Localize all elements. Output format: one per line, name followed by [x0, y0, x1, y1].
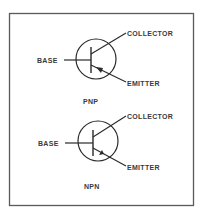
transistor-diagram: BASE COLLECTOR EMITTER PNP BASE COLLECTO… [0, 0, 202, 219]
pnp-type-label: PNP [83, 98, 98, 105]
npn-emitter-lead [93, 148, 126, 166]
pnp-emitter-label: EMITTER [127, 80, 160, 87]
npn-envelope-circle [78, 121, 118, 161]
pnp-transistor-symbol: BASE COLLECTOR EMITTER PNP [37, 30, 173, 105]
pnp-collector-lead [91, 33, 126, 54]
pnp-envelope-circle [76, 39, 116, 79]
npn-collector-lead [93, 116, 126, 137]
pnp-base-label: BASE [37, 57, 58, 64]
diagram-frame [10, 14, 194, 206]
pnp-collector-label: COLLECTOR [127, 30, 173, 37]
npn-collector-label: COLLECTOR [127, 113, 173, 120]
npn-emitter-label: EMITTER [127, 164, 160, 171]
npn-emitter-arrow-icon [99, 150, 104, 155]
pnp-emitter-arrow-icon [96, 67, 103, 73]
npn-type-label: NPN [84, 183, 100, 190]
npn-transistor-symbol: BASE COLLECTOR EMITTER NPN [38, 113, 173, 190]
npn-base-label: BASE [38, 140, 59, 147]
